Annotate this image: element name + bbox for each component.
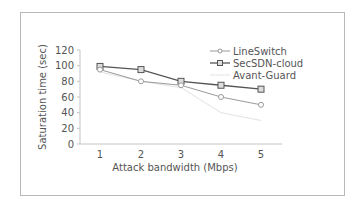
- y-tick-label: 20: [61, 123, 74, 134]
- data-point: [179, 83, 184, 88]
- x-axis: 12345: [80, 144, 282, 160]
- legend-marker: [218, 49, 222, 53]
- data-point: [258, 86, 264, 92]
- legend-label: Avant-Guard: [233, 70, 296, 81]
- legend-label: SecSDN-cloud: [233, 58, 303, 69]
- y-tick-label: 60: [61, 92, 74, 103]
- y-tick-label: 120: [55, 45, 74, 56]
- y-tick-label: 100: [55, 60, 74, 71]
- legend-marker: [218, 61, 223, 66]
- data-point: [138, 67, 144, 73]
- data-point: [139, 79, 144, 84]
- x-tick-label: 3: [178, 149, 184, 160]
- y-tick-label: 80: [61, 76, 74, 87]
- data-point: [218, 82, 224, 88]
- x-axis-label: Attack bandwidth (Mbps): [112, 162, 237, 173]
- y-axis-label: Saturation time (sec): [37, 44, 48, 150]
- data-point: [259, 102, 264, 107]
- y-tick-label: 0: [68, 139, 74, 150]
- x-tick-label: 4: [218, 149, 224, 160]
- legend-label: LineSwitch: [233, 46, 287, 57]
- x-tick-label: 5: [258, 149, 264, 160]
- y-axis: 020406080100120: [55, 45, 80, 150]
- y-tick-label: 40: [61, 107, 74, 118]
- x-tick-label: 2: [138, 149, 144, 160]
- legend: LineSwitchSecSDN-cloudAvant-Guard: [210, 46, 303, 81]
- data-point: [98, 67, 103, 72]
- data-point: [219, 95, 224, 100]
- x-tick-label: 1: [97, 149, 103, 160]
- line-chart: 020406080100120 12345 LineSwitchSecSDN-c…: [0, 0, 363, 205]
